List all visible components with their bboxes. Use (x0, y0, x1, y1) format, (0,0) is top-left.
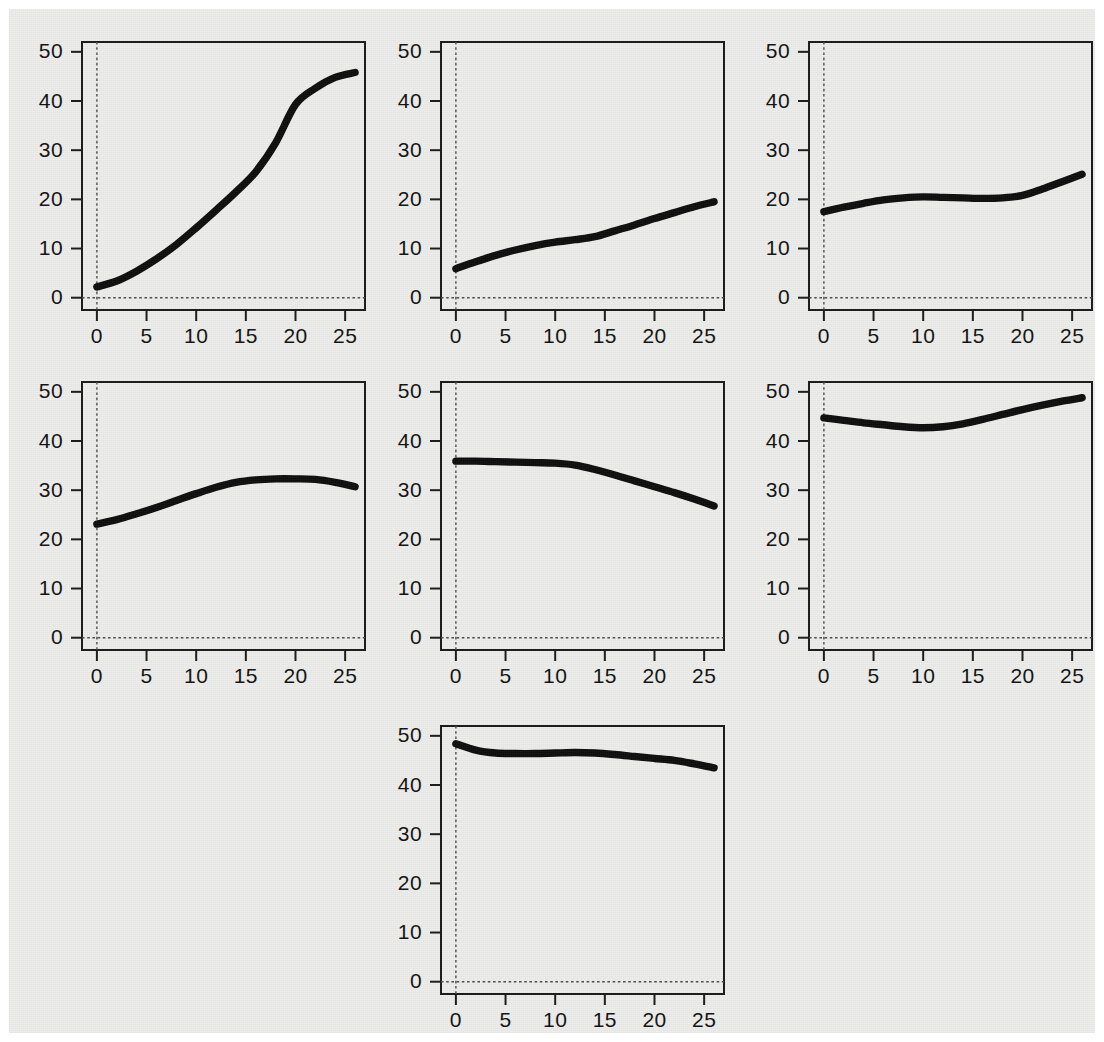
x-tick-label: 20 (642, 664, 666, 687)
y-tick-label: 0 (51, 285, 63, 308)
y-tick-label: 40 (39, 89, 63, 112)
y-tick-label: 50 (766, 39, 790, 62)
plot-frame (809, 42, 1092, 310)
x-tick-label: 5 (499, 664, 511, 687)
y-tick-label: 0 (778, 285, 790, 308)
y-tick-label: 30 (398, 478, 422, 501)
y-tick-label: 40 (766, 89, 790, 112)
chart-panel-3: 010203040500510152025 (750, 33, 1104, 356)
panel-plot-5: 010203040500510152025 (382, 373, 738, 696)
x-tick-label: 25 (333, 324, 357, 347)
y-tick-label: 10 (398, 576, 422, 599)
y-tick-label: 50 (39, 39, 63, 62)
y-tick-label: 0 (410, 969, 422, 992)
x-tick-label: 0 (818, 324, 830, 347)
x-tick-label: 25 (333, 664, 357, 687)
data-series-line (824, 174, 1082, 211)
panel-plot-1: 010203040500510152025 (23, 33, 379, 356)
y-tick-label: 0 (51, 625, 63, 648)
y-tick-label: 50 (398, 723, 422, 746)
y-tick-label: 40 (398, 89, 422, 112)
x-tick-label: 10 (184, 664, 208, 687)
x-tick-label: 20 (1010, 664, 1034, 687)
y-tick-label: 50 (39, 379, 63, 402)
y-tick-label: 40 (39, 429, 63, 452)
x-tick-label: 20 (283, 664, 307, 687)
x-tick-label: 5 (499, 1008, 511, 1031)
x-tick-label: 10 (911, 324, 935, 347)
x-tick-label: 15 (593, 324, 617, 347)
chart-panel-2: 010203040500510152025 (382, 33, 738, 356)
x-tick-label: 5 (140, 324, 152, 347)
x-tick-label: 25 (692, 324, 716, 347)
x-tick-label: 0 (450, 1008, 462, 1031)
x-tick-label: 5 (499, 324, 511, 347)
y-tick-label: 10 (39, 576, 63, 599)
x-tick-label: 20 (642, 324, 666, 347)
y-tick-label: 0 (410, 285, 422, 308)
y-tick-label: 0 (778, 625, 790, 648)
chart-panel-4: 010203040500510152025 (23, 373, 379, 696)
y-tick-label: 30 (766, 478, 790, 501)
chart-panel-7: 010203040500510152025 (382, 717, 738, 1040)
x-tick-label: 10 (543, 324, 567, 347)
x-tick-label: 25 (1060, 664, 1084, 687)
x-tick-label: 15 (961, 664, 985, 687)
x-tick-label: 10 (543, 664, 567, 687)
x-tick-label: 0 (91, 664, 103, 687)
y-tick-label: 20 (39, 187, 63, 210)
y-tick-label: 30 (398, 138, 422, 161)
y-tick-label: 20 (398, 871, 422, 894)
x-tick-label: 25 (1060, 324, 1084, 347)
y-tick-label: 40 (766, 429, 790, 452)
x-tick-label: 10 (184, 324, 208, 347)
y-tick-label: 50 (766, 379, 790, 402)
x-tick-label: 5 (867, 664, 879, 687)
y-tick-label: 30 (39, 478, 63, 501)
y-tick-label: 30 (766, 138, 790, 161)
panel-plot-7: 010203040500510152025 (382, 717, 738, 1040)
panel-plot-3: 010203040500510152025 (750, 33, 1104, 356)
y-tick-label: 30 (398, 822, 422, 845)
x-tick-label: 0 (450, 324, 462, 347)
x-tick-label: 0 (450, 664, 462, 687)
x-tick-label: 20 (283, 324, 307, 347)
chart-panel-6: 010203040500510152025 (750, 373, 1104, 696)
panel-plot-4: 010203040500510152025 (23, 373, 379, 696)
x-tick-label: 20 (1010, 324, 1034, 347)
y-tick-label: 10 (766, 236, 790, 259)
data-series-line (456, 744, 714, 768)
x-tick-label: 0 (91, 324, 103, 347)
plot-frame (441, 42, 724, 310)
figure-canvas: 010203040500510152025 010203040500510152… (0, 0, 1104, 1042)
x-tick-label: 0 (818, 664, 830, 687)
y-tick-label: 20 (398, 527, 422, 550)
y-tick-label: 20 (398, 187, 422, 210)
plot-frame (441, 726, 724, 994)
x-tick-label: 20 (642, 1008, 666, 1031)
x-tick-label: 15 (234, 324, 258, 347)
data-series-line (456, 461, 714, 506)
data-series-line (97, 479, 355, 524)
y-tick-label: 0 (410, 625, 422, 648)
y-tick-label: 30 (39, 138, 63, 161)
plot-frame (441, 382, 724, 650)
x-tick-label: 10 (543, 1008, 567, 1031)
y-tick-label: 50 (398, 39, 422, 62)
y-tick-label: 10 (39, 236, 63, 259)
y-tick-label: 40 (398, 429, 422, 452)
x-tick-label: 15 (961, 324, 985, 347)
panel-plot-2: 010203040500510152025 (382, 33, 738, 356)
y-tick-label: 10 (398, 236, 422, 259)
y-tick-label: 20 (766, 527, 790, 550)
x-tick-label: 15 (234, 664, 258, 687)
chart-panel-1: 010203040500510152025 (23, 33, 379, 356)
y-tick-label: 40 (398, 773, 422, 796)
x-tick-label: 15 (593, 664, 617, 687)
data-series-line (824, 398, 1082, 428)
y-tick-label: 50 (398, 379, 422, 402)
x-tick-label: 25 (692, 1008, 716, 1031)
x-tick-label: 25 (692, 664, 716, 687)
panel-plot-6: 010203040500510152025 (750, 373, 1104, 696)
y-tick-label: 10 (766, 576, 790, 599)
